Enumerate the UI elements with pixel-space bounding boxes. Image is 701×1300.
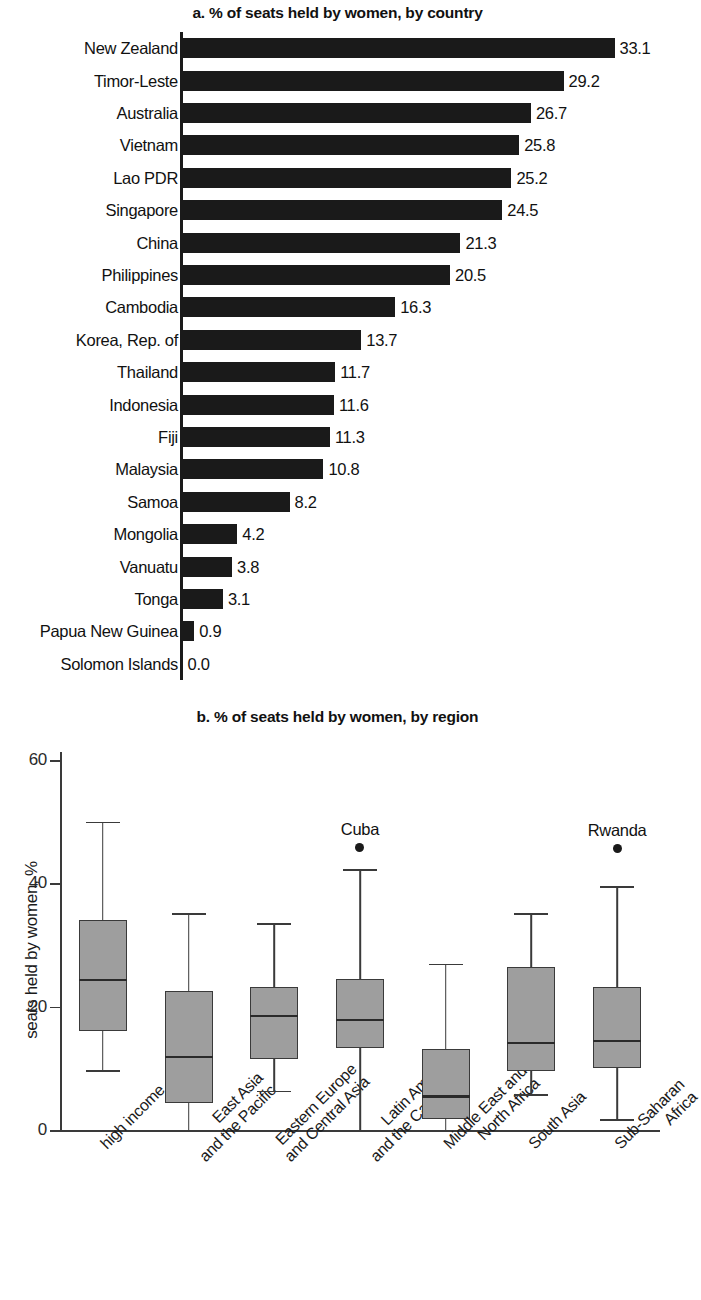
lower-whisker-line	[188, 1103, 190, 1130]
bar-row: Philippines20.5	[0, 259, 675, 291]
bar-row: Korea, Rep. of13.7	[0, 324, 675, 356]
median-line	[422, 1095, 470, 1097]
bar	[183, 297, 396, 317]
bar-category-label: Korea, Rep. of	[76, 330, 178, 349]
bar-value-label: 8.2	[295, 492, 317, 511]
bar-category-label: Vietnam	[120, 136, 178, 155]
bar-category-label: Vanuatu	[120, 557, 178, 576]
median-line	[250, 1015, 298, 1017]
bar-row: Vanuatu3.8	[0, 550, 675, 582]
bar-category-label: Singapore	[105, 201, 178, 220]
outlier-point	[613, 844, 622, 853]
bar-row: Tonga3.1	[0, 583, 675, 615]
bar-category-label: Samoa	[127, 492, 178, 511]
upper-whisker-cap	[600, 886, 634, 888]
bar-value-label: 10.8	[328, 460, 359, 479]
y-axis-tick-label: 60	[29, 750, 47, 770]
y-axis-tick-label: 0	[38, 1120, 47, 1140]
bar-category-label: Australia	[117, 103, 179, 122]
bar-value-label: 16.3	[400, 298, 431, 317]
bar	[183, 427, 330, 447]
bar-row: Indonesia11.6	[0, 388, 675, 420]
bar-value-label: 4.2	[242, 525, 264, 544]
box-plot-group	[60, 690, 146, 1132]
bar-chart-plot-area: New Zealand33.1Timor-Leste29.2Australia2…	[0, 32, 675, 682]
bar-value-label: 11.7	[340, 363, 370, 382]
median-line	[165, 1056, 213, 1058]
y-axis-tick-label: 40	[29, 873, 47, 893]
median-line	[79, 979, 127, 981]
bar-row: Mongolia4.2	[0, 518, 675, 550]
bar-value-label: 21.3	[465, 233, 496, 252]
upper-whisker-line	[188, 913, 190, 991]
bar	[183, 200, 503, 220]
box-iqr-rect	[79, 920, 127, 1031]
panel-a-title: a. % of seats held by women, by country	[0, 4, 675, 22]
lower-whisker-line	[359, 1048, 361, 1130]
bar	[183, 524, 238, 544]
median-line	[507, 1042, 555, 1044]
box-iqr-rect	[250, 987, 298, 1059]
upper-whisker-cap	[172, 913, 206, 915]
bar	[183, 362, 336, 382]
median-line	[593, 1040, 641, 1042]
bar-value-label: 29.2	[569, 71, 600, 90]
bar-value-label: 13.7	[366, 330, 397, 349]
lower-whisker-line	[445, 1119, 447, 1130]
bar-category-label: Indonesia	[109, 395, 178, 414]
bar-value-label: 0.0	[188, 654, 210, 673]
box-plot-group	[146, 690, 232, 1132]
box-plot-group: Cuba	[317, 690, 403, 1132]
bar	[183, 589, 223, 609]
bar-value-label: 20.5	[455, 265, 486, 284]
bar-value-label: 0.9	[199, 622, 221, 641]
bar-value-label: 24.5	[507, 201, 538, 220]
box-iqr-rect	[422, 1049, 470, 1119]
lower-whisker-line	[531, 1071, 533, 1094]
box-iqr-rect	[593, 987, 641, 1068]
upper-whisker-cap	[257, 923, 291, 925]
bar-value-label: 25.2	[516, 168, 547, 187]
panel-b-box-plot: b. % of seats held by women, by region s…	[0, 690, 675, 1300]
bar-row: Fiji11.3	[0, 421, 675, 453]
bar	[183, 38, 615, 58]
lower-whisker-cap	[86, 1070, 120, 1072]
bar-value-label: 3.8	[237, 557, 259, 576]
bar	[183, 135, 520, 155]
bar-category-label: Lao PDR	[113, 168, 178, 187]
outlier-annotation-label: Cuba	[341, 820, 379, 839]
bar-category-label: Solomon Islands	[61, 654, 179, 673]
bar-value-label: 33.1	[620, 39, 651, 58]
bar-value-label: 11.6	[339, 395, 369, 414]
bar-category-label: Tonga	[135, 589, 178, 608]
box-plot-group	[489, 690, 575, 1132]
bar	[183, 395, 334, 415]
y-axis-tick-label: 20	[29, 997, 47, 1017]
upper-whisker-line	[273, 923, 275, 987]
bar-row: Timor-Leste29.2	[0, 64, 675, 96]
bar	[183, 233, 461, 253]
bar-row: Singapore24.5	[0, 194, 675, 226]
y-axis-title: seats held by women, %	[22, 825, 42, 1075]
outlier-annotation-label: Rwanda	[588, 821, 647, 840]
bar	[183, 330, 362, 350]
bar-category-label: Mongolia	[113, 525, 178, 544]
bar-row: Malaysia10.8	[0, 453, 675, 485]
box-plot-group	[231, 690, 317, 1132]
upper-whisker-cap	[86, 822, 120, 824]
upper-whisker-line	[616, 886, 618, 987]
bar-category-label: Cambodia	[105, 298, 178, 317]
bar-row: Vietnam25.8	[0, 129, 675, 161]
upper-whisker-line	[445, 964, 447, 1049]
upper-whisker-line	[359, 869, 361, 979]
bar-value-label: 11.3	[335, 427, 365, 446]
bar-category-label: Papua New Guinea	[40, 622, 178, 641]
lower-whisker-cap	[257, 1091, 291, 1093]
upper-whisker-line	[102, 822, 104, 921]
bar-row: Solomon Islands0.0	[0, 648, 675, 680]
bar-value-label: 26.7	[536, 103, 567, 122]
upper-whisker-cap	[514, 913, 548, 915]
bar-category-label: New Zealand	[84, 39, 178, 58]
bar-row: China21.3	[0, 226, 675, 258]
box-plot-area: seats held by women, % 0204060high incom…	[0, 690, 675, 1300]
